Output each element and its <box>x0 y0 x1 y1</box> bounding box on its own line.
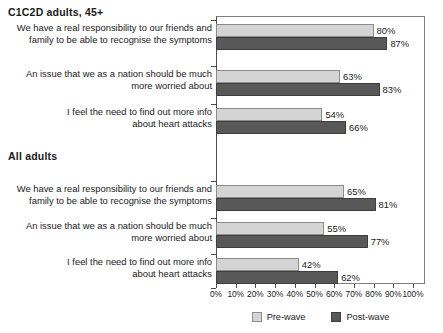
x-axis-tick-label: 0% <box>210 289 222 299</box>
category-label-line: An issue that we as a nation should be m… <box>0 220 212 232</box>
bar-post-wave <box>216 198 376 211</box>
bar-value-label: 42% <box>299 258 321 271</box>
x-axis-tick <box>255 284 256 288</box>
category-label-line: I feel the need to find out more info <box>0 106 212 118</box>
bar-value-label: 65% <box>344 185 366 198</box>
legend-swatch-post-wave <box>331 312 341 322</box>
legend-item-post-wave: Post-wave <box>331 312 389 322</box>
category-label: I feel the need to find out more infoabo… <box>0 106 212 129</box>
x-axis-tick <box>236 284 237 288</box>
x-axis-tick <box>275 284 276 288</box>
bar-value-label: 83% <box>380 83 402 96</box>
bar-pre-wave <box>216 24 374 37</box>
y-axis-tick <box>211 218 216 219</box>
x-axis-tick-label: 10% <box>227 289 244 299</box>
y-axis-tick <box>211 104 216 105</box>
x-axis-tick-label: 60% <box>326 289 343 299</box>
category-label-line: We have a real responsibility to our fri… <box>0 183 212 195</box>
x-axis-tick-label: 100% <box>402 289 423 299</box>
category-label-line: more worried about <box>0 232 212 244</box>
category-label-line: We have a real responsibility to our fri… <box>0 22 212 34</box>
y-axis-tick <box>211 20 216 21</box>
bar-pre-wave <box>216 70 340 83</box>
bar-post-wave <box>216 37 387 50</box>
x-axis-tick-label: 20% <box>247 289 264 299</box>
category-label: An issue that we as a nation should be m… <box>0 68 212 91</box>
legend-swatch-pre-wave <box>252 312 262 322</box>
bar-post-wave <box>216 235 368 248</box>
bar-value-label: 77% <box>368 235 390 248</box>
bar-value-label: 63% <box>340 70 362 83</box>
bar-pre-wave <box>216 222 324 235</box>
bar-value-label: 55% <box>324 222 346 235</box>
bar-post-wave <box>216 121 346 134</box>
legend-label-pre-wave: Pre-wave <box>267 312 306 322</box>
bar-pre-wave <box>216 258 299 271</box>
legend-item-pre-wave: Pre-wave <box>252 312 306 322</box>
bar-post-wave <box>216 83 380 96</box>
category-label-line: An issue that we as a nation should be m… <box>0 68 212 80</box>
category-label: I feel the need to find out more infoabo… <box>0 256 212 279</box>
x-axis-tick-label: 80% <box>365 289 382 299</box>
chart-legend: Pre-wave Post-wave <box>216 312 425 322</box>
category-label-line: family to be able to recognise the sympt… <box>0 34 212 46</box>
x-axis-tick <box>354 284 355 288</box>
bar-post-wave <box>216 271 338 284</box>
bar-value-label: 87% <box>387 37 409 50</box>
x-axis-tick-label: 70% <box>346 289 363 299</box>
bar-value-label: 81% <box>376 198 398 211</box>
x-axis-tick-label: 90% <box>385 289 402 299</box>
category-label-line: family to be able to recognise the sympt… <box>0 195 212 207</box>
x-axis-tick-label: 40% <box>286 289 303 299</box>
x-axis-tick <box>413 284 414 288</box>
x-axis-tick-label: 50% <box>306 289 323 299</box>
category-label-line: I feel the need to find out more info <box>0 256 212 268</box>
y-axis-tick <box>211 66 216 67</box>
category-label: An issue that we as a nation should be m… <box>0 220 212 243</box>
bar-pre-wave <box>216 185 344 198</box>
bar-value-label: 54% <box>322 108 344 121</box>
bar-value-label: 62% <box>338 271 360 284</box>
group-header-all-adults: All adults <box>8 150 57 162</box>
x-axis-tick <box>216 284 217 288</box>
category-label-line: about heart attacks <box>0 268 212 280</box>
x-axis-tick-label: 30% <box>267 289 284 299</box>
category-label: We have a real responsibility to our fri… <box>0 183 212 206</box>
legend-label-post-wave: Post-wave <box>346 312 389 322</box>
y-axis-tick <box>211 181 216 182</box>
category-label-line: about heart attacks <box>0 118 212 130</box>
category-label: We have a real responsibility to our fri… <box>0 22 212 45</box>
y-axis-tick <box>211 254 216 255</box>
x-axis-tick <box>393 284 394 288</box>
x-axis-tick <box>315 284 316 288</box>
bar-value-label: 66% <box>346 121 368 134</box>
category-label-line: more worried about <box>0 80 212 92</box>
x-axis-tick <box>374 284 375 288</box>
bar-pre-wave <box>216 108 322 121</box>
x-axis-tick <box>334 284 335 288</box>
x-axis-tick <box>295 284 296 288</box>
bar-value-label: 80% <box>374 24 396 37</box>
group-header-c1c2d: C1C2D adults, 45+ <box>8 6 103 18</box>
